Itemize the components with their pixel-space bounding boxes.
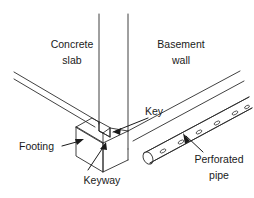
- basement-wall-shape: [99, 14, 128, 131]
- key-edge-c: [103, 133, 110, 137]
- construction-detail-drawing: Concrete slab Basement wall Key Footing …: [0, 0, 254, 198]
- label-perforated-pipe-line2: pipe: [209, 169, 229, 181]
- key-leader: [113, 118, 148, 135]
- slab-bottom-edge: [14, 79, 95, 127]
- keyway-leader-line: [88, 146, 104, 170]
- diagram-canvas: Concrete slab Basement wall Key Footing …: [0, 0, 254, 198]
- footing-leader: [62, 139, 84, 146]
- slab-top-edge: [14, 72, 99, 122]
- footing-shape: [76, 118, 128, 172]
- label-concrete-slab-line1: Concrete: [51, 38, 94, 50]
- trench-lines: [128, 71, 252, 163]
- perforation-hole: [244, 105, 250, 110]
- perforation-hole: [232, 110, 239, 116]
- footing-front-face: [76, 127, 103, 172]
- perforation-hole: [160, 148, 167, 154]
- label-basement-wall-line1: Basement: [157, 38, 204, 50]
- label-basement-wall-line2: wall: [171, 54, 190, 66]
- keyway-leader: [88, 142, 107, 170]
- label-footing: Footing: [19, 140, 54, 152]
- pipe-end-cap: [141, 150, 155, 166]
- footing-bottom-right-edge: [103, 160, 128, 172]
- label-key: Key: [145, 105, 164, 117]
- footing-top-right-edge: [103, 128, 110, 133]
- trench-top-far-edge: [128, 71, 240, 131]
- label-keyway: Keyway: [84, 174, 122, 186]
- perforation-hole: [214, 120, 221, 126]
- pipe-leader-line: [186, 136, 203, 152]
- concrete-slab-shape: [14, 72, 99, 127]
- label-concrete-slab-line2: slab: [62, 54, 81, 66]
- pipe-perforations: [160, 105, 250, 154]
- perforation-hole: [196, 129, 203, 135]
- key-edge-a: [99, 131, 103, 133]
- label-perforated-pipe-line1: Perforated: [194, 153, 243, 165]
- perforation-hole: [178, 139, 185, 145]
